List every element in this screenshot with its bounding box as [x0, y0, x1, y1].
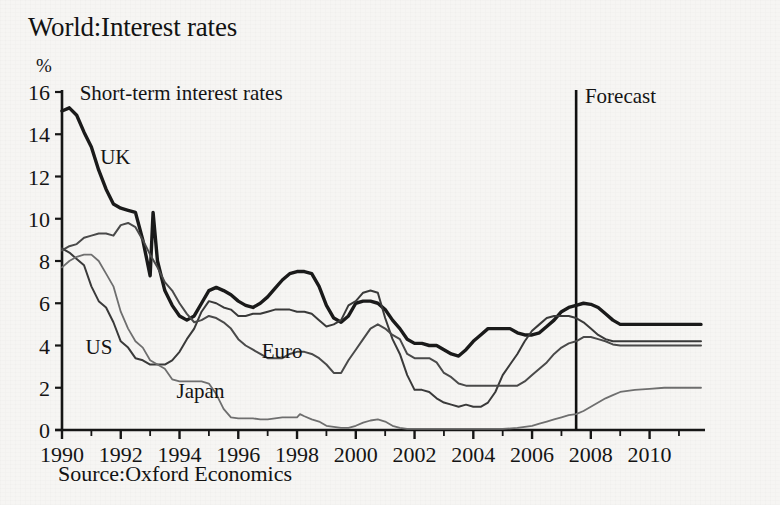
- forecast-label: Forecast: [585, 84, 656, 108]
- chart-plot: 0246810121416199019921994199619982000200…: [0, 0, 780, 505]
- x-tick-label: 1994: [158, 442, 202, 467]
- y-tick-label: 2: [39, 376, 50, 401]
- y-tick-label: 14: [28, 122, 50, 147]
- y-tick-label: 16: [28, 80, 50, 105]
- x-tick-label: 1996: [216, 442, 260, 467]
- x-tick-label: 2006: [510, 442, 554, 467]
- plot-note-label: Short-term interest rates: [80, 81, 283, 105]
- annotation-layer: Short-term interest ratesForecastUKUSEur…: [80, 81, 657, 403]
- chart-page: World:Interest rates % 02468101214161990…: [0, 0, 780, 505]
- y-tick-label: 10: [28, 207, 50, 232]
- x-tick-label: 2002: [393, 442, 437, 467]
- series-layer: [62, 108, 701, 429]
- series-label-uk: UK: [100, 145, 130, 169]
- x-tick-label: 2008: [569, 442, 613, 467]
- y-tick-label: 6: [39, 291, 50, 316]
- series-line-uk: [62, 108, 701, 356]
- x-tick-label: 2000: [334, 442, 378, 467]
- series-label-euro: Euro: [262, 339, 303, 363]
- x-tick-label: 1992: [99, 442, 143, 467]
- x-tick-label: 2004: [451, 442, 495, 467]
- y-tick-label: 4: [39, 334, 50, 359]
- series-label-japan: Japan: [177, 379, 225, 403]
- x-tick-label: 1998: [275, 442, 319, 467]
- axis-layer: 0246810121416199019921994199619982000200…: [28, 80, 705, 467]
- x-tick-label: 1990: [40, 442, 84, 467]
- x-tick-label: 2010: [628, 442, 672, 467]
- series-label-us: US: [86, 335, 113, 359]
- y-tick-label: 0: [39, 418, 50, 443]
- y-tick-label: 8: [39, 249, 50, 274]
- y-tick-label: 12: [28, 165, 50, 190]
